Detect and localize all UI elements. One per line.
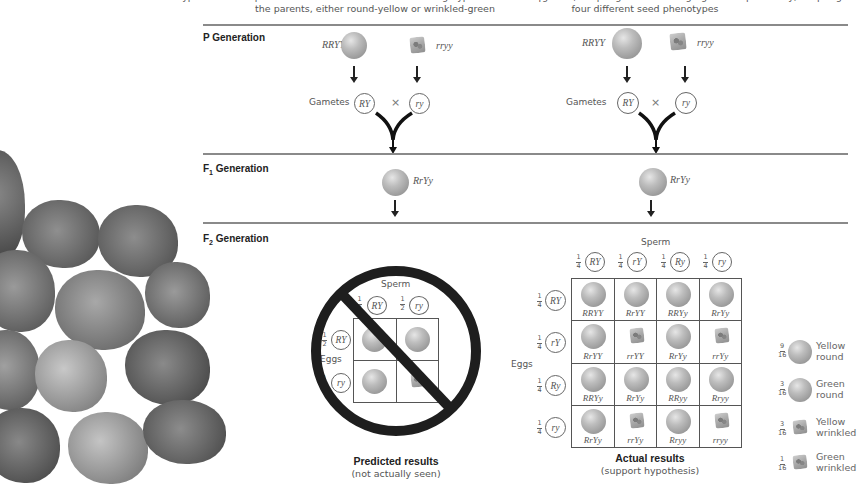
parent2-genotype: rryy <box>436 40 453 51</box>
round-seed-icon <box>624 282 649 307</box>
legend-label-green-wrinkled: Greenwrinkled <box>816 451 856 473</box>
parent2-genotype: rryy <box>697 37 714 48</box>
round-seed-icon <box>382 169 409 196</box>
gamete-circle: rY <box>627 252 647 272</box>
pea-seed <box>68 412 148 484</box>
round-seed-icon <box>666 409 691 434</box>
fraction-quarter: 14 <box>537 420 542 436</box>
predicted-results-title: Predicted results <box>346 455 446 467</box>
punnett-cell: RRYy <box>572 363 615 405</box>
fraction-9-16: 916 <box>778 343 786 359</box>
wrinkled-seed-icon <box>669 32 687 51</box>
predicted-results-subtitle: (not actually seen) <box>346 468 446 479</box>
round-seed-icon <box>624 367 649 392</box>
f2-generation-label: F2 Generation <box>203 233 269 246</box>
down-arrow <box>416 66 418 79</box>
wrinkled-seed-icon <box>629 412 644 428</box>
actual-punnett-square: RRYY RrYY RRYy RrYy RrYY rrYY RrYy rrYy … <box>571 278 742 448</box>
round-seed-icon <box>612 28 642 59</box>
round-seed-icon <box>788 340 812 364</box>
punnett-cell: RrYY <box>614 279 657 321</box>
gametes-label: Gametes <box>566 97 607 107</box>
prohibition-icon <box>300 262 490 442</box>
divider-rule <box>203 153 848 155</box>
punnett-cell: RrYy <box>699 279 742 321</box>
fraction-quarter: 14 <box>703 254 708 270</box>
gamete-circle: rY <box>545 332 566 353</box>
punnett-cell: RRYY <box>572 279 615 321</box>
fraction-quarter: 14 <box>537 335 542 351</box>
punnett-cell: rrYy <box>614 405 657 447</box>
fraction-quarter: 14 <box>618 254 623 270</box>
fraction-3-16: 316 <box>778 421 786 437</box>
eggs-label: Eggs <box>511 359 533 369</box>
legend-label-green-round: Greenround <box>816 378 845 400</box>
gamete-circle: Ry <box>670 252 690 272</box>
wrinkled-seed-icon <box>629 328 644 344</box>
punnett-cell: RrYy <box>614 363 657 405</box>
wrinkled-seed-icon <box>792 419 807 434</box>
fraction-3-16: 316 <box>778 381 786 397</box>
punnett-cell: Rryy <box>699 363 742 405</box>
down-arrow <box>353 66 355 79</box>
pea-seed <box>143 400 226 464</box>
gamete-circle: RY <box>585 252 605 272</box>
pea-seed <box>145 262 210 328</box>
round-seed-icon <box>581 409 606 434</box>
pea-seeds-photo <box>0 150 230 485</box>
punnett-cell: Rryy <box>657 405 700 447</box>
punnett-cell: rrYy <box>699 321 742 363</box>
punnett-cell: rrYY <box>614 321 657 363</box>
round-seed-icon <box>581 282 606 307</box>
wrinkled-seed-icon <box>714 328 729 344</box>
pea-seed <box>0 408 60 483</box>
round-seed-icon <box>788 378 812 402</box>
gamete-circle: RY <box>545 290 566 311</box>
actual-results-title: Actual results <box>595 452 705 464</box>
pea-seed <box>125 330 210 405</box>
pea-seed <box>55 270 145 350</box>
punnett-cell: RrYy <box>572 405 615 447</box>
down-arrow <box>650 200 652 213</box>
merge-arrow-icon <box>635 110 685 156</box>
round-seed-icon <box>666 324 691 349</box>
fraction-quarter: 14 <box>537 293 542 309</box>
pea-seed <box>0 330 40 410</box>
punnett-cell: RrYy <box>657 321 700 363</box>
punnett-cell: RRyy <box>657 363 700 405</box>
round-seed-icon <box>639 168 667 196</box>
round-seed-icon <box>666 282 691 307</box>
p-generation-label: P Generation <box>203 32 265 43</box>
parent1-genotype: RRYY <box>582 37 605 48</box>
actual-results-subtitle: (support hypothesis) <box>590 465 710 476</box>
legend-label-yellow-round: Yellowround <box>816 340 845 362</box>
pea-seed <box>35 340 107 412</box>
gamete-circle: ry <box>545 417 566 438</box>
sperm-label: Sperm <box>641 237 670 247</box>
fraction-1-16: 116 <box>778 456 786 472</box>
gamete-circle: ry <box>712 252 732 272</box>
pea-seed <box>0 150 25 260</box>
round-seed-icon <box>341 32 367 59</box>
f1-genotype: RrYy <box>413 175 433 186</box>
round-seed-icon <box>666 367 691 392</box>
punnett-cell: RRYy <box>657 279 700 321</box>
down-arrow <box>684 66 686 79</box>
right-hypothesis-line1: Hypothesis of independent assortment: al… <box>450 0 850 2</box>
round-seed-icon <box>709 367 734 392</box>
f1-generation-label: F1 Generation <box>203 163 269 176</box>
f1-genotype: RrYy <box>670 174 690 185</box>
gamete-circle: Ry <box>545 375 566 396</box>
wrinkled-seed-icon <box>409 36 426 53</box>
cross-symbol: × <box>391 96 400 109</box>
wrinkled-seed-icon <box>714 412 729 428</box>
fraction-quarter: 14 <box>537 378 542 394</box>
punnett-cell: rryy <box>699 405 742 447</box>
right-hypothesis-line2: four different seed phenotypes <box>540 3 750 14</box>
fraction-quarter: 14 <box>661 254 666 270</box>
merge-arrow-icon <box>370 110 420 156</box>
round-seed-icon <box>581 367 606 392</box>
wrinkled-seed-icon <box>792 454 807 469</box>
divider-rule <box>203 222 848 224</box>
cross-symbol: × <box>651 96 660 109</box>
